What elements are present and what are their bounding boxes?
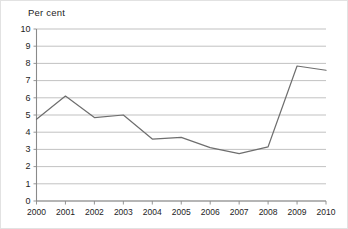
y-axis-tick-labels: 012345678910 (20, 24, 30, 206)
y-tick-label: 6 (25, 93, 30, 103)
y-tick-label: 10 (20, 24, 30, 34)
x-tick-label: 2010 (317, 207, 336, 217)
x-axis-tick-labels: 2000200120022003200420052006200720082009… (27, 207, 336, 217)
y-tick-label: 1 (25, 179, 30, 189)
line-chart-plot: 012345678910 200020012002200320042005200… (1, 1, 348, 229)
y-tick-label: 5 (25, 110, 30, 120)
x-tick-label: 2004 (143, 207, 162, 217)
y-tick-label: 8 (25, 58, 30, 68)
y-tick-label: 9 (25, 41, 30, 51)
x-tick-label: 2005 (172, 207, 191, 217)
y-tick-label: 7 (25, 75, 30, 85)
y-tick-label: 3 (25, 144, 30, 154)
x-tick-label: 2008 (259, 207, 278, 217)
x-tick-label: 2001 (56, 207, 75, 217)
y-tick-label: 4 (25, 127, 30, 137)
y-tick-label: 0 (25, 196, 30, 206)
x-tick-label: 2003 (114, 207, 133, 217)
data-series-line (37, 66, 327, 154)
x-tick-label: 2007 (230, 207, 249, 217)
x-tick-label: 2002 (85, 207, 104, 217)
gridlines (37, 29, 327, 201)
x-tick-label: 2009 (288, 207, 307, 217)
chart-figure: Per cent 012345678910 200020012002200320… (0, 0, 348, 229)
x-tick-label: 2006 (201, 207, 220, 217)
x-tick-label: 2000 (27, 207, 46, 217)
y-tick-label: 2 (25, 161, 30, 171)
